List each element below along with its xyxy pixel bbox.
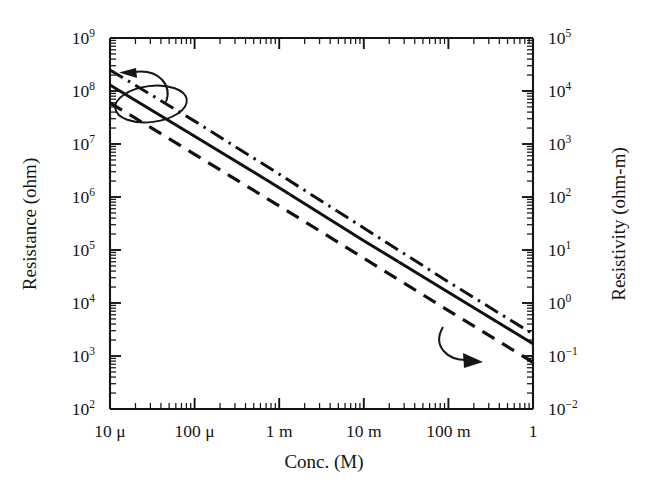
y-tick-label-4: 106 (72, 186, 96, 207)
left-axis-ticks (110, 38, 121, 409)
bottom-tick-labels: 10 μ100 μ1 m10 m100 m1 (94, 421, 537, 441)
group-ellipse (113, 82, 189, 127)
figure-root: 102103104105106107108109 10−210−11001011… (0, 0, 649, 495)
y-tick-label-2: 104 (72, 292, 96, 313)
y2-tick-label-2: 100 (548, 292, 572, 313)
y-tick-label-6: 108 (72, 80, 96, 101)
y-axis-title: Resistance (ohm) (19, 158, 41, 290)
right-tick-labels: 10−210−1100101102103104105 (548, 27, 578, 419)
y2-tick-label-6: 104 (548, 80, 572, 101)
x-tick-label-4: 100 m (426, 421, 471, 441)
y-tick-label-7: 109 (72, 27, 96, 48)
x-tick-label-2: 1 m (266, 421, 293, 441)
y2-tick-label-1: 10−1 (548, 345, 578, 366)
x-axis-title: Conc. (M) (284, 451, 363, 473)
y-tick-label-0: 102 (72, 398, 96, 419)
x-tick-label-1: 100 μ (175, 421, 215, 441)
series-upper-bound (110, 70, 533, 334)
resistance-vs-concentration-chart: 102103104105106107108109 10−210−11001011… (0, 0, 649, 495)
x-tick-label-3: 10 m (346, 421, 382, 441)
right-axis-ticks (522, 38, 533, 409)
right-axis-pointer-arrowhead (463, 353, 483, 368)
y2-axis-title: Resistivity (ohm-m) (608, 147, 630, 301)
left-tick-labels: 102103104105106107108109 (72, 27, 96, 419)
series-nominal (110, 85, 533, 344)
x-tick-label-0: 10 μ (94, 421, 125, 441)
series-lower-bound (110, 103, 533, 363)
y-tick-label-1: 103 (72, 345, 96, 366)
y-tick-label-3: 105 (72, 239, 96, 260)
plot-frame (110, 38, 533, 409)
data-series-group (110, 70, 533, 362)
x-tick-label-5: 1 (529, 421, 538, 441)
y2-tick-label-5: 103 (548, 133, 572, 154)
y2-tick-label-3: 101 (548, 239, 572, 260)
bottom-axis-ticks (110, 398, 533, 409)
top-axis-ticks (110, 38, 533, 49)
y2-tick-label-0: 10−2 (548, 398, 578, 419)
y-tick-label-5: 107 (72, 133, 96, 154)
y2-tick-label-4: 102 (548, 186, 572, 207)
y2-tick-label-7: 105 (548, 27, 572, 48)
